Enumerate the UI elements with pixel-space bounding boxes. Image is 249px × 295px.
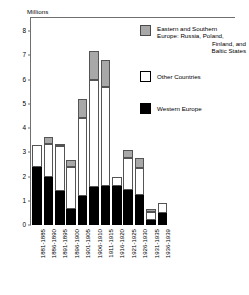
legend-label-west: Western Europe bbox=[157, 105, 246, 113]
bar-segment-other bbox=[55, 146, 65, 191]
bar-segment-west bbox=[55, 191, 65, 225]
bar-segment-east bbox=[135, 158, 145, 168]
bar-segment-other bbox=[158, 203, 168, 213]
y-axis-title: Millions bbox=[27, 8, 48, 15]
bar-segment-other bbox=[78, 118, 88, 195]
x-axis-tick-label: 1886-1890 bbox=[51, 229, 57, 258]
bar-segment-west bbox=[135, 195, 145, 225]
bar-column bbox=[66, 160, 76, 225]
x-axis-tick-label: 1881-1885 bbox=[40, 229, 46, 258]
bar-segment-other bbox=[135, 168, 145, 195]
bar-segment-west bbox=[66, 209, 76, 225]
bar-segment-west bbox=[44, 177, 54, 225]
x-axis-tick-label: 1926-1930 bbox=[142, 229, 148, 258]
bar-series-group bbox=[31, 24, 168, 225]
bar-segment-other bbox=[66, 167, 76, 209]
bar-segment-west bbox=[123, 190, 133, 225]
bar-segment-west bbox=[78, 196, 88, 225]
bar-segment-east bbox=[78, 99, 88, 118]
bar-segment-other bbox=[112, 177, 122, 187]
bar-column bbox=[55, 144, 65, 225]
bar-column bbox=[44, 137, 54, 225]
bar-segment-west bbox=[146, 220, 156, 225]
x-axis-tick-label: 1921-1925 bbox=[131, 229, 137, 258]
bar-segment-east bbox=[101, 60, 111, 87]
x-axis-tick-label: 1911-1915 bbox=[108, 229, 114, 258]
bar-column bbox=[78, 99, 88, 225]
bar-column bbox=[146, 209, 156, 225]
x-axis-tick-label: 1896-1900 bbox=[74, 229, 80, 258]
bar-column bbox=[101, 60, 111, 225]
bar-column bbox=[135, 158, 145, 225]
legend-swatch-west bbox=[140, 103, 151, 114]
bar-column bbox=[158, 203, 168, 225]
bar-column bbox=[32, 145, 42, 225]
bar-segment-other bbox=[101, 87, 111, 186]
bar-segment-east bbox=[44, 137, 54, 144]
legend-label-east: Eastern and SouthernEurope: Russia, Pola… bbox=[157, 25, 246, 55]
bar-segment-other bbox=[123, 158, 133, 189]
x-axis-tick-label: 1936-1939 bbox=[165, 229, 171, 258]
x-axis-tick-label: 1931-1935 bbox=[154, 229, 160, 258]
legend-swatch-other bbox=[140, 71, 151, 82]
top-border-line bbox=[30, 17, 235, 18]
bar-segment-west bbox=[158, 213, 168, 225]
bar-column bbox=[89, 51, 99, 225]
bar-segment-east bbox=[89, 51, 99, 80]
bar-column bbox=[123, 150, 133, 225]
bar-segment-east bbox=[66, 160, 76, 167]
bar-segment-east bbox=[123, 150, 133, 158]
x-axis-tick-label: 1916-1920 bbox=[119, 229, 125, 258]
bar-segment-west bbox=[112, 186, 122, 225]
bar-segment-west bbox=[89, 187, 99, 225]
bar-segment-east bbox=[55, 144, 65, 146]
bar-segment-other bbox=[89, 80, 99, 188]
x-axis-tick-label: 1901-1905 bbox=[85, 229, 91, 258]
bar-segment-other bbox=[32, 145, 42, 167]
x-axis-tick-label: 1891-1895 bbox=[62, 229, 68, 258]
legend-swatch-east bbox=[140, 25, 151, 36]
immigration-bar-chart: Millions 012345678 1881-18851886-1890189… bbox=[0, 0, 249, 295]
bar-segment-east bbox=[146, 209, 156, 211]
bar-segment-other bbox=[146, 212, 156, 220]
bar-segment-other bbox=[44, 144, 54, 177]
bar-column bbox=[112, 177, 122, 225]
bar-segment-west bbox=[101, 186, 111, 225]
legend-label-other: Other Countries bbox=[157, 73, 246, 81]
x-axis-tick-label: 1906-1910 bbox=[97, 229, 103, 258]
bar-segment-west bbox=[32, 167, 42, 225]
